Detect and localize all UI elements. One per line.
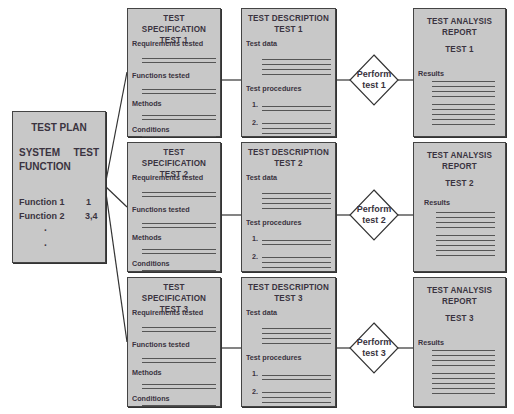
- test-report-box-3: TEST ANALYSIS REPORT TEST 3 Results: [413, 277, 506, 407]
- test-data-label: Test data: [246, 308, 277, 317]
- test-procedures-label: Test procedures: [246, 84, 301, 93]
- rule-line: [262, 328, 331, 329]
- spec-title: TEST SPECIFICATION: [133, 282, 216, 304]
- test-data-label: Test data: [246, 39, 277, 48]
- report-title-line2: REPORT: [419, 296, 501, 307]
- perform-test-1-line1: Perform: [354, 69, 394, 80]
- rule-line: [432, 96, 495, 97]
- rule-line: [432, 350, 495, 351]
- report-title-line1: TEST ANALYSIS: [419, 16, 501, 27]
- rule-line: [432, 365, 495, 366]
- rule-line: [142, 327, 216, 328]
- rule-line: [142, 196, 216, 197]
- rule-line: [142, 115, 216, 116]
- rule-line: [436, 217, 495, 218]
- report-test-number: TEST 1: [419, 44, 501, 55]
- rule-line: [436, 212, 495, 213]
- rule-line: [262, 375, 331, 376]
- desc-test-number: TEST 3: [247, 293, 331, 304]
- field-requirements-tested: Requirements tested: [132, 173, 203, 182]
- rule-line: [262, 198, 331, 199]
- function-2-name: Function 2: [19, 211, 65, 221]
- test-report-box-2: TEST ANALYSIS REPORT TEST 2 Results: [413, 142, 506, 272]
- rule-line: [142, 227, 216, 228]
- rule-line: [432, 383, 495, 384]
- system-function-header-line2: FUNCTION: [19, 161, 71, 172]
- rule-line: [432, 360, 495, 361]
- field-conditions: Conditions: [132, 259, 170, 268]
- rule-line: [436, 222, 495, 223]
- rule-line: [432, 109, 495, 110]
- field-functions-tested: Functions tested: [132, 71, 190, 80]
- report-test-number: TEST 3: [419, 313, 501, 324]
- desc-test-number: TEST 1: [247, 24, 331, 35]
- test-desc-box-1: TEST DESCRIPTION TEST 1 Test data Test p…: [241, 8, 336, 137]
- rule-line: [262, 397, 331, 398]
- report-title-line1: TEST ANALYSIS: [419, 150, 501, 161]
- rule-line: [432, 378, 495, 379]
- system-function-header: SYSTEM: [19, 147, 60, 158]
- rule-line: [262, 123, 331, 124]
- rule-line: [262, 59, 331, 60]
- perform-test-3-line1: Perform: [354, 337, 394, 348]
- rule-line: [432, 124, 495, 125]
- rule-line: [432, 373, 495, 374]
- rule-line: [142, 89, 216, 90]
- rule-line: [142, 58, 216, 59]
- rule-line: [436, 250, 495, 251]
- rule-line: [262, 106, 331, 107]
- step-2: 2.: [252, 118, 258, 127]
- results-label: Results: [424, 198, 450, 207]
- rule-line: [142, 362, 216, 363]
- rule-line: [432, 86, 495, 87]
- rule-line: [142, 62, 216, 63]
- test-report-box-1: TEST ANALYSIS REPORT TEST 1 Results: [413, 8, 506, 137]
- function-1-test: 1: [86, 197, 91, 207]
- spec-title: TEST SPECIFICATION: [133, 147, 216, 169]
- field-requirements-tested: Requirements tested: [132, 308, 203, 317]
- rule-line: [262, 133, 331, 134]
- rule-line: [142, 253, 216, 254]
- rule-line: [262, 64, 331, 65]
- report-title-line2: REPORT: [419, 161, 501, 172]
- rule-line: [432, 104, 495, 105]
- step-1: 1.: [252, 369, 258, 378]
- desc-test-number: TEST 2: [247, 158, 331, 169]
- rule-line: [142, 388, 216, 389]
- rule-line: [262, 74, 331, 75]
- rule-line: [262, 203, 331, 204]
- rule-line: [262, 267, 331, 268]
- rule-line: [262, 262, 331, 263]
- rule-line: [436, 235, 495, 236]
- rule-line: [262, 193, 331, 194]
- rule-line: [262, 392, 331, 393]
- rule-line: [142, 136, 216, 137]
- ellipsis-dot: ·: [44, 240, 47, 251]
- rule-line: [432, 388, 495, 389]
- test-header: TEST: [73, 147, 99, 158]
- test-spec-box-3: TEST SPECIFICATION TEST 3 Requirements t…: [127, 277, 221, 407]
- rule-line: [432, 81, 495, 82]
- function-2-test: 3,4: [85, 211, 98, 221]
- rule-line: [142, 331, 216, 332]
- desc-title: TEST DESCRIPTION: [247, 282, 331, 293]
- test-plan-title: TEST PLAN: [13, 122, 105, 133]
- rule-line: [262, 343, 331, 344]
- report-title-line2: REPORT: [419, 27, 501, 38]
- report-title-line1: TEST ANALYSIS: [419, 285, 501, 296]
- ellipsis-dot: ·: [44, 225, 47, 236]
- rule-line: [262, 338, 331, 339]
- step-2: 2.: [252, 387, 258, 396]
- rule-line: [436, 240, 495, 241]
- rule-line: [142, 249, 216, 250]
- rule-line: [142, 93, 216, 94]
- report-test-number: TEST 2: [419, 178, 501, 189]
- rule-line: [262, 240, 331, 241]
- rule-line: [436, 245, 495, 246]
- spec-title: TEST SPECIFICATION: [133, 13, 216, 35]
- rule-line: [142, 223, 216, 224]
- step-2: 2.: [252, 252, 258, 261]
- field-methods: Methods: [132, 99, 162, 108]
- rule-line: [432, 91, 495, 92]
- test-desc-box-2: TEST DESCRIPTION TEST 2 Test data Test p…: [241, 142, 336, 272]
